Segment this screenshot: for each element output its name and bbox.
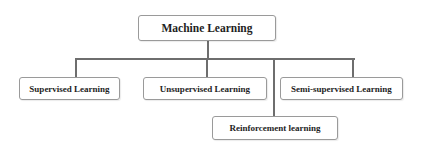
node-label: Unsupervised Learning <box>160 84 250 94</box>
connector-reinforcement <box>273 58 275 117</box>
node-machine-learning: Machine Learning <box>138 15 276 41</box>
node-semi-supervised-learning: Semi-supervised Learning <box>280 77 403 100</box>
node-label: Semi-supervised Learning <box>291 84 392 94</box>
connector-root-down <box>207 40 209 60</box>
connector-unsupervised <box>206 58 208 78</box>
node-supervised-learning: Supervised Learning <box>19 77 120 100</box>
connector-supervised <box>75 58 77 78</box>
node-label: Reinforcement learning <box>229 123 320 133</box>
node-reinforcement-learning: Reinforcement learning <box>212 116 338 140</box>
node-label: Supervised Learning <box>29 84 109 94</box>
connector-semi-supervised <box>352 58 354 78</box>
node-unsupervised-learning: Unsupervised Learning <box>143 77 267 100</box>
node-label: Machine Learning <box>161 22 252 34</box>
connector-horizontal-bus <box>75 58 355 60</box>
